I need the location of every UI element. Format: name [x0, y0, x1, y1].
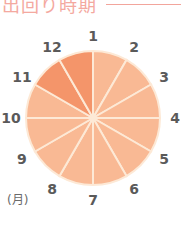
month-label-3: 3: [159, 70, 169, 84]
month-label-9: 9: [17, 152, 27, 166]
month-label-4: 4: [170, 111, 180, 125]
month-label-8: 8: [47, 182, 57, 196]
month-label-7: 7: [88, 193, 98, 207]
unit-label: (月): [7, 190, 28, 207]
month-label-5: 5: [159, 152, 169, 166]
month-label-10: 10: [1, 111, 20, 125]
month-label-6: 6: [129, 182, 139, 196]
month-label-11: 11: [12, 70, 31, 84]
month-label-2: 2: [129, 40, 139, 54]
month-label-1: 1: [88, 29, 98, 43]
month-label-12: 12: [42, 40, 61, 54]
